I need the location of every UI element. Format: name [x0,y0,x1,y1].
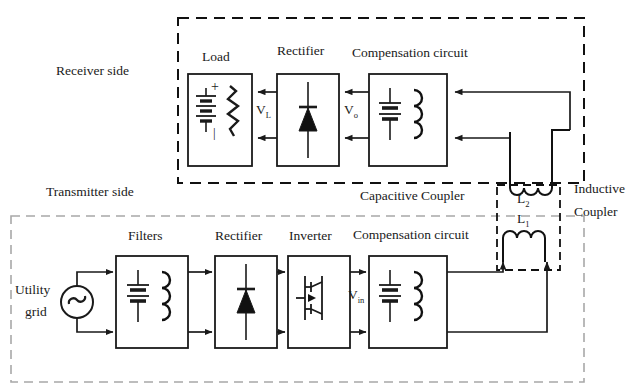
receiver-rectifier-label: Rectifier [277,44,324,58]
receiver-compensation-label: Compensation circuit [352,46,468,60]
transmitter-compensation-label: Compensation circuit [353,228,469,242]
transmitter-compensation-block [369,256,447,348]
wire-source-bottom [77,318,113,332]
inverter-voltage-sub: in [358,295,365,305]
coil-L1-symbol [503,231,545,262]
load-voltage-sub: L [266,110,271,120]
load-voltage-label: VL [256,103,271,120]
filters-block-label: Filters [128,229,163,243]
wire-source-top [77,272,113,286]
utility-grid-label-line1: Utility [15,283,50,297]
inverter-voltage-base: V [348,287,358,302]
transmitter-rectifier-label: Rectifier [215,229,262,243]
wire-L2-top-to-comp [455,92,570,98]
battery-plus-sign: + [211,80,219,95]
output-voltage-base: V [344,102,354,117]
load-block [188,74,252,166]
receiver-compensation-block [369,74,447,166]
receiver-coil-label: L2 [517,192,530,209]
receiver-coil-sub: 2 [525,199,529,209]
transmitter-side-label: Transmitter side [46,185,134,199]
inverter-block [288,256,350,348]
load-block-label: Load [202,50,230,64]
filters-block [116,256,188,348]
inductive-coupler-label-line2: Coupler [574,205,618,219]
receiver-side-label: Receiver side [56,64,129,78]
receiver-coil-base: L [517,191,525,206]
ac-source-symbol [61,286,93,318]
wire-L2-bot-to-comp [455,132,510,138]
output-voltage-sub: o [354,110,358,120]
battery-minus-sign: | [213,126,216,140]
transmitter-coil-sub: 1 [525,219,529,229]
utility-grid-label-line2: grid [25,305,47,319]
inductive-coupler-label-line1: Inductive [574,182,625,196]
circuit-diagram-canvas: Receiver side Transmitter side Capacitiv… [0,0,636,391]
output-voltage-label: Vo [344,103,358,120]
inverter-voltage-label: Vin [348,288,364,305]
inverter-block-label: Inverter [289,229,332,243]
capacitive-coupler-label: Capacitive Coupler [360,189,465,203]
transmitter-coil-base: L [517,211,525,226]
load-voltage-base: V [256,102,266,117]
wire-comp-to-L1-top [447,262,503,272]
transmitter-coil-label: L1 [517,212,530,229]
